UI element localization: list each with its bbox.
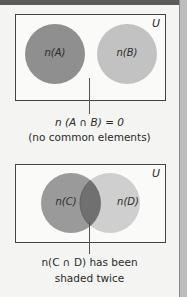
- set-c-label: n(C): [36, 196, 96, 207]
- universal-set-box-1: U n(A) n(B): [15, 14, 166, 101]
- caption-2-line-1: n(C ∩ D) has been: [0, 255, 179, 270]
- caption-1-line-1: n (A ∩ B) = 0: [0, 115, 179, 130]
- set-b-label: n(B): [97, 47, 157, 58]
- caption-1-line-2: (no common elements): [0, 130, 179, 145]
- page-edge-bar: [179, 0, 187, 297]
- set-d-label: n(D): [98, 196, 158, 207]
- pointer-line-2: [89, 222, 90, 254]
- caption-2-line-2: shaded twice: [0, 271, 179, 286]
- top-border: [0, 0, 187, 5]
- universal-label: U: [152, 17, 160, 30]
- set-a-label: n(A): [25, 47, 85, 58]
- pointer-line-1: [89, 78, 90, 114]
- universal-set-box-2: U n(C) n(D): [15, 164, 166, 243]
